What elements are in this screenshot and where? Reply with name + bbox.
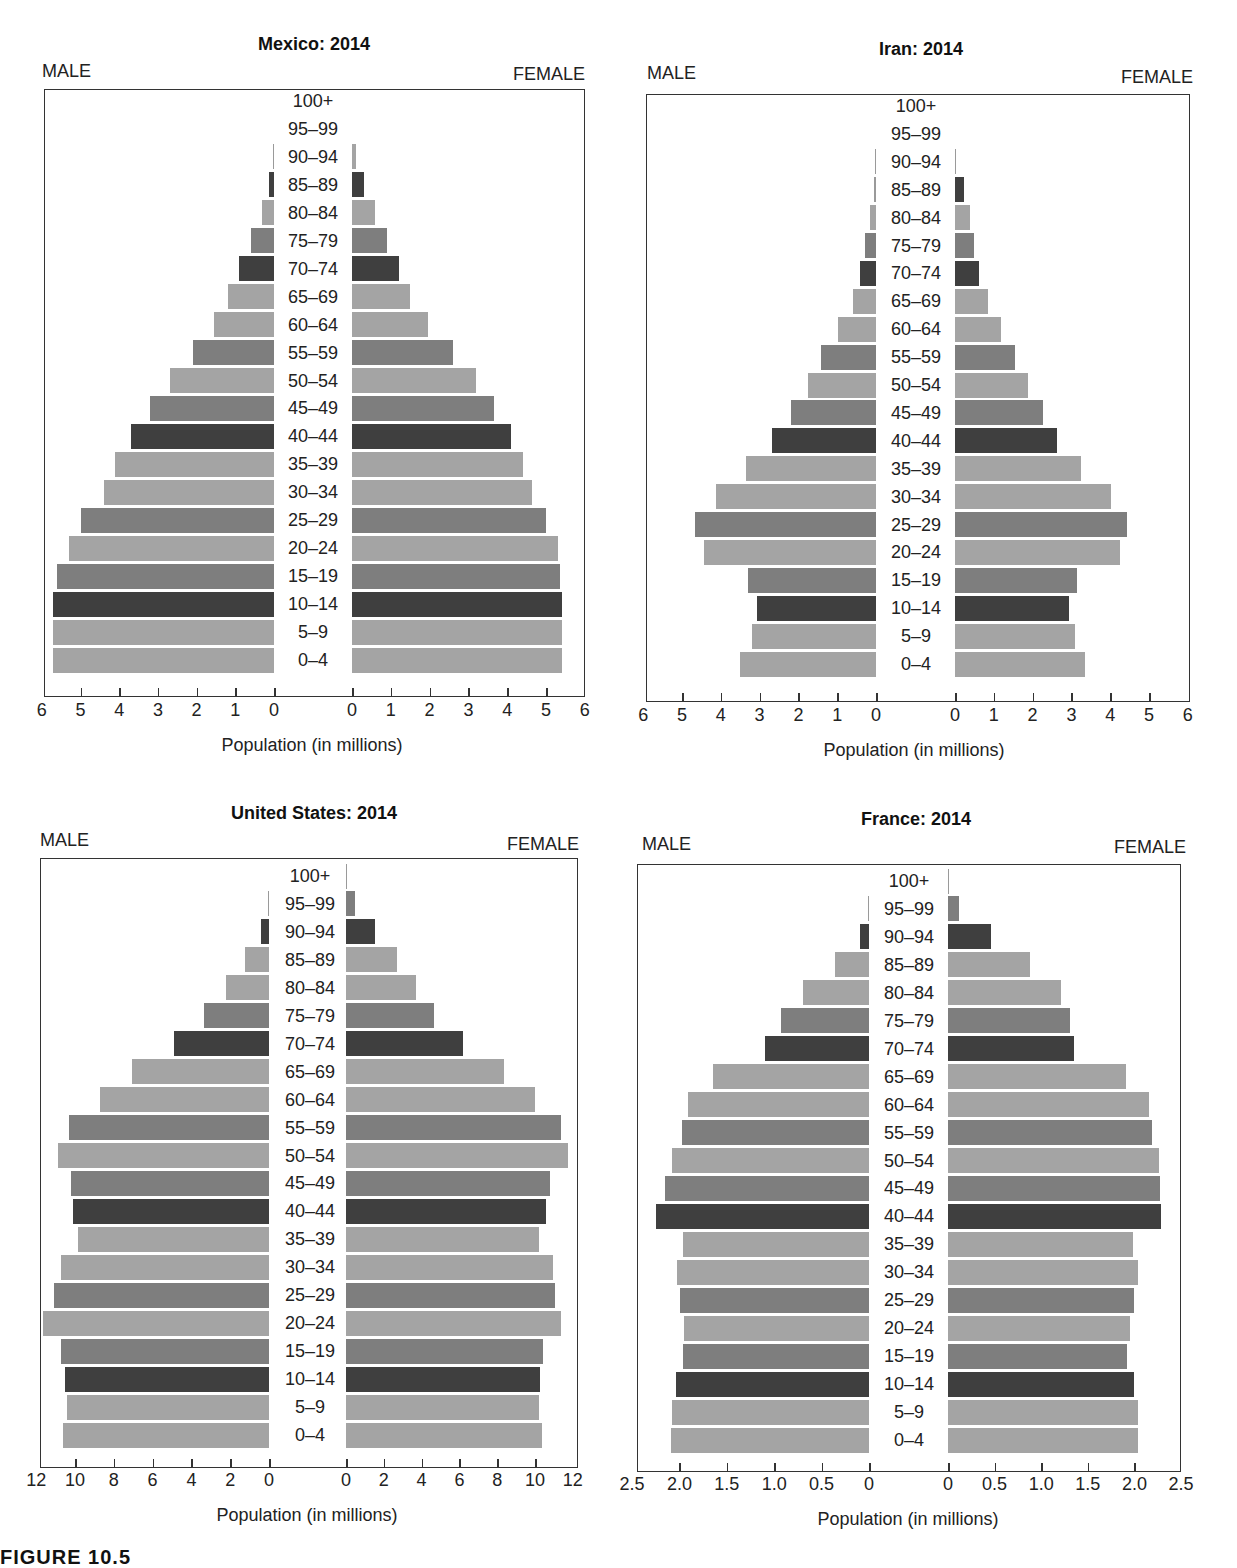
female-bar: [346, 1059, 504, 1084]
female-bar: [346, 1087, 535, 1112]
male-axis-tick-label: 6: [37, 700, 47, 721]
female-axis-tick-label: 0: [347, 700, 357, 721]
male-bar: [740, 652, 876, 677]
age-group-label: 65–69: [285, 1061, 335, 1082]
axis-tick: [955, 693, 957, 702]
age-group-label: 85–89: [884, 954, 934, 975]
female-bar: [948, 1176, 1160, 1201]
chart-title: France: 2014: [861, 809, 971, 830]
axis-tick: [274, 688, 276, 697]
male-bar: [193, 340, 274, 365]
male-label: MALE: [647, 63, 696, 84]
female-bar: [948, 952, 1030, 977]
female-label: FEMALE: [1114, 837, 1186, 858]
female-bar: [955, 596, 1069, 621]
male-bar: [115, 452, 274, 477]
age-group-label: 20–24: [891, 542, 941, 563]
axis-tick: [876, 693, 878, 702]
male-bar: [104, 480, 274, 505]
axis-tick: [546, 688, 548, 697]
axis-tick: [682, 693, 684, 702]
axis-tick: [869, 1463, 871, 1472]
female-bar: [948, 1260, 1138, 1285]
age-group-label: 55–59: [288, 342, 338, 363]
female-bar: [948, 1092, 1149, 1117]
axis-tick: [1149, 693, 1151, 702]
female-bar: [346, 1255, 553, 1280]
age-group-label: 100+: [889, 871, 930, 892]
age-group-label: 60–64: [891, 319, 941, 340]
axis-tick: [191, 1459, 193, 1468]
axis-tick: [721, 693, 723, 702]
male-bar: [656, 1204, 869, 1229]
axis-tick: [1134, 1463, 1136, 1472]
male-bar: [671, 1428, 869, 1453]
male-bar: [61, 1339, 269, 1364]
male-axis-tick-label: 0: [269, 700, 279, 721]
axis-tick: [727, 1463, 729, 1472]
female-axis-tick-label: 1: [989, 705, 999, 726]
female-bar: [948, 980, 1061, 1005]
male-axis-tick-label: 2.5: [619, 1474, 644, 1495]
male-bar: [81, 508, 275, 533]
female-bar: [346, 1031, 463, 1056]
male-bar: [684, 1316, 869, 1341]
male-bar: [268, 891, 269, 916]
male-bar: [821, 345, 876, 370]
male-axis-tick-label: 1.5: [714, 1474, 739, 1495]
axis-tick: [197, 688, 199, 697]
female-bar: [948, 1288, 1134, 1313]
female-bar: [955, 456, 1081, 481]
male-bar: [269, 172, 274, 197]
age-group-label: 75–79: [884, 1010, 934, 1031]
x-axis-label: Population (in millions): [823, 740, 1004, 761]
male-bar: [752, 624, 876, 649]
male-bar: [704, 540, 876, 565]
male-axis-tick-label: 8: [109, 1470, 119, 1491]
age-group-label: 40–44: [891, 430, 941, 451]
age-group-label: 95–99: [891, 123, 941, 144]
male-bar: [58, 1143, 269, 1168]
female-bar: [346, 1311, 561, 1336]
male-bar: [672, 1400, 869, 1425]
age-group-label: 70–74: [288, 258, 338, 279]
axis-tick: [774, 1463, 776, 1472]
age-group-label: 30–34: [288, 482, 338, 503]
age-group-label: 55–59: [891, 347, 941, 368]
axis-tick: [114, 1459, 116, 1468]
female-bar: [948, 1204, 1161, 1229]
axis-tick: [679, 1463, 681, 1472]
female-bar: [955, 540, 1120, 565]
female-bar: [955, 652, 1085, 677]
age-group-label: 85–89: [285, 949, 335, 970]
female-bar: [352, 648, 562, 673]
male-bar: [757, 596, 876, 621]
female-bar: [955, 345, 1015, 370]
age-group-label: 70–74: [891, 263, 941, 284]
female-bar: [955, 289, 988, 314]
age-group-label: 15–19: [891, 570, 941, 591]
age-group-label: 85–89: [891, 179, 941, 200]
male-axis-tick-label: 3: [755, 705, 765, 726]
female-bar: [948, 1316, 1130, 1341]
male-bar: [683, 1344, 869, 1369]
male-axis-tick-label: 0: [264, 1470, 274, 1491]
age-group-label: 40–44: [884, 1206, 934, 1227]
female-bar: [346, 1423, 542, 1448]
female-bar: [948, 1428, 1138, 1453]
female-bar: [955, 484, 1111, 509]
age-group-label: 90–94: [288, 146, 338, 167]
female-axis-tick-label: 8: [492, 1470, 502, 1491]
age-group-label: 55–59: [884, 1122, 934, 1143]
male-bar: [65, 1367, 269, 1392]
axis-tick: [75, 1459, 77, 1468]
axis-tick: [459, 1459, 461, 1468]
male-bar: [835, 952, 869, 977]
female-bar: [346, 1003, 434, 1028]
male-bar: [71, 1171, 269, 1196]
female-bar: [948, 1008, 1070, 1033]
age-group-label: 25–29: [891, 514, 941, 535]
axis-tick: [1041, 1463, 1043, 1472]
axis-tick: [346, 1459, 348, 1468]
male-bar: [672, 1148, 869, 1173]
